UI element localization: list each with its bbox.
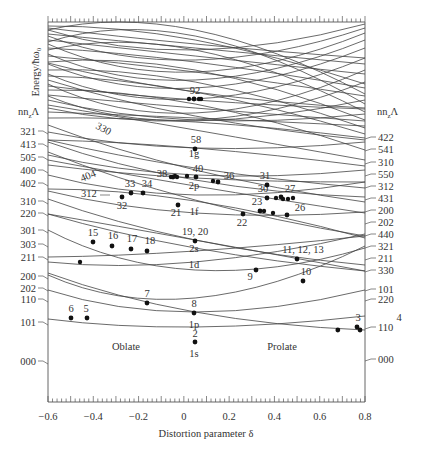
- oblate-label: Oblate: [112, 341, 140, 352]
- magic-point: [175, 175, 179, 179]
- left-level-label: 505: [20, 152, 36, 163]
- energy-level-line: [48, 95, 365, 121]
- magic-number-label: 92: [190, 85, 201, 96]
- magic-number-label: 40: [193, 163, 204, 174]
- energy-level-line: [48, 22, 365, 94]
- right-level-label: 202: [378, 217, 394, 228]
- magic-point: [91, 240, 96, 245]
- right-level-label: 330: [378, 265, 394, 276]
- right-label-leader: [365, 359, 376, 361]
- energy-level-line: [48, 63, 365, 108]
- right-label-leader: [365, 210, 376, 212]
- magic-point: [199, 97, 203, 101]
- magic-number-label: 15: [88, 227, 99, 238]
- left-level-label: 303: [20, 239, 36, 250]
- magic-point: [110, 244, 115, 249]
- shell-label-1d: 1d: [189, 259, 200, 270]
- magic-point: [129, 247, 134, 252]
- right-level-label: 312: [378, 181, 394, 192]
- left-level-label: 402: [20, 178, 36, 189]
- magic-number-label: 17: [127, 233, 138, 244]
- left-label-leader: [38, 288, 48, 291]
- magic-point: [120, 195, 125, 200]
- left-level-label: 321: [20, 126, 36, 137]
- right-level-label: 310: [378, 157, 394, 168]
- left-label-leader: [38, 157, 48, 160]
- right-label-leader: [365, 299, 376, 301]
- x-axis-label: Distortion parameter δ: [159, 428, 254, 439]
- magic-number-label: 31: [260, 170, 271, 181]
- x-tick-label: 0.4: [268, 411, 282, 422]
- right-level-label: 440: [378, 229, 394, 240]
- right-label-leader: [365, 258, 376, 260]
- magic-number-label: 36: [224, 170, 235, 181]
- left-level-label: 000: [20, 356, 36, 367]
- magic-point: [193, 239, 198, 244]
- y-axis-label: Energy/ħω₀: [30, 47, 41, 96]
- magic-point: [241, 212, 246, 217]
- left-level-label: 101: [20, 317, 36, 328]
- energy-level-line: [48, 24, 365, 50]
- magic-point: [216, 180, 221, 185]
- magic-point: [358, 328, 363, 333]
- left-label-leader: [38, 257, 48, 260]
- magic-number-label: 23: [252, 196, 263, 207]
- x-tick-label: −0.2: [129, 411, 148, 422]
- left-level-label: 310: [20, 196, 36, 207]
- x-tick-label: 0.6: [313, 411, 326, 422]
- magic-point: [145, 301, 150, 306]
- right-label-leader: [365, 222, 376, 224]
- shell-label-2p: 2p: [189, 180, 200, 191]
- magic-point: [78, 260, 82, 264]
- energy-level-line: [48, 140, 365, 166]
- left-label-leader: [38, 299, 48, 302]
- magic-number-label: 58: [191, 134, 202, 145]
- magic-point: [265, 196, 270, 201]
- left-label-leader: [38, 170, 48, 173]
- magic-number-label: 4: [396, 312, 402, 323]
- magic-point: [285, 213, 290, 218]
- right-label-leader: [365, 174, 376, 176]
- magic-number-label: 8: [191, 298, 196, 309]
- magic-point: [258, 209, 263, 214]
- x-tick-label: 0.8: [358, 411, 371, 422]
- magic-point: [286, 197, 290, 201]
- x-tick-label: −0.4: [84, 411, 104, 422]
- magic-point: [145, 249, 150, 254]
- magic-point: [193, 147, 198, 152]
- magic-point: [194, 175, 199, 180]
- magic-number-label: 10: [301, 266, 312, 277]
- magic-point: [262, 209, 266, 213]
- right-label-leader: [365, 162, 376, 164]
- magic-number-label: 7: [144, 288, 149, 299]
- left-label-leader: [38, 322, 48, 325]
- shell-label-1s: 1s: [189, 348, 198, 359]
- right-level-label: 431: [378, 193, 394, 204]
- magic-point: [301, 279, 306, 284]
- magic-point: [281, 197, 285, 201]
- right-level-label: 200: [378, 205, 394, 216]
- magic-number-label: 33: [125, 178, 136, 189]
- magic-number-label: 32: [117, 200, 128, 211]
- magic-point: [169, 175, 173, 179]
- magic-number-label: 16: [108, 230, 119, 241]
- magic-number-label: 26: [295, 202, 306, 213]
- right-label-leader: [365, 246, 376, 248]
- nilsson-diagram: −0.6−0.4−0.200.20.40.60.8 32141350540040…: [0, 0, 431, 455]
- energy-level-line: [48, 160, 365, 213]
- right-label-leader: [365, 137, 376, 139]
- left-label-leader: [38, 276, 48, 279]
- prolate-label: Prolate: [267, 341, 297, 352]
- right-label-leader: [365, 327, 376, 329]
- magic-number-label: 21: [171, 207, 182, 218]
- left-level-label: 301: [20, 225, 36, 236]
- right-level-label: 321: [378, 241, 394, 252]
- axis-ticks: −0.6−0.4−0.200.20.40.60.8: [38, 16, 371, 422]
- magic-number-label: 11, 12, 13: [282, 244, 324, 255]
- magic-point: [187, 97, 191, 101]
- magic-number-label: 38: [157, 168, 168, 179]
- magic-point: [129, 191, 134, 196]
- inline-label-330: 330: [94, 120, 113, 137]
- magic-number-label: 18: [145, 235, 156, 246]
- energy-level-line: [48, 48, 365, 88]
